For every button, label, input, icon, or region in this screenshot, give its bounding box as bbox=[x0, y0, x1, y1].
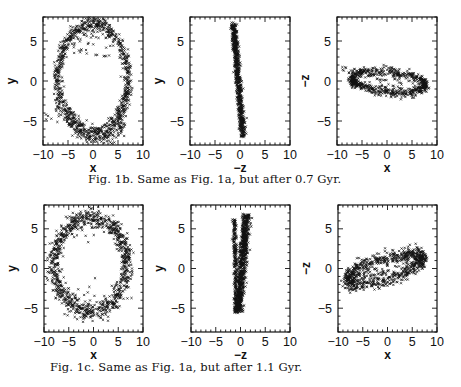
x-tick-label: 0 bbox=[384, 335, 391, 349]
scatter-plot: −10−50510−505xy bbox=[44, 205, 143, 332]
data-points bbox=[340, 243, 428, 294]
figure-caption: Fig. 1c. Same as Fig. 1a, but after 1.1 … bbox=[50, 360, 302, 374]
y-tick-label: 5 bbox=[325, 222, 332, 236]
panel-1c-xy: −10−50510−505xy bbox=[44, 205, 143, 332]
x-tick-label: 0 bbox=[237, 335, 244, 349]
x-tick-label: 10 bbox=[136, 335, 150, 349]
x-tick-label: 10 bbox=[283, 335, 297, 349]
y-tick-label: 0 bbox=[178, 262, 185, 276]
y-axis-label: y bbox=[5, 265, 19, 272]
panel-1c-zy: −10−50510−505−zy bbox=[191, 205, 290, 332]
x-tick-label: −10 bbox=[180, 335, 201, 349]
figure-1c: −10−50510−505xy −10−50510−505−zy −10−505… bbox=[0, 0, 461, 387]
data-points bbox=[46, 206, 135, 323]
y-axis-label: −z bbox=[299, 262, 313, 275]
x-tick-label: 5 bbox=[409, 335, 416, 349]
x-tick-label: 10 bbox=[430, 335, 444, 349]
x-tick-label: 0 bbox=[90, 335, 97, 349]
x-tick-label: −10 bbox=[327, 335, 348, 349]
x-tick-label: 5 bbox=[262, 335, 269, 349]
scatter-plot: −10−50510−505x−z bbox=[338, 205, 437, 332]
y-tick-label: −5 bbox=[24, 302, 38, 316]
x-tick-label: −10 bbox=[33, 335, 54, 349]
x-tick-label: 5 bbox=[115, 335, 122, 349]
y-tick-label: 0 bbox=[31, 262, 38, 276]
x-axis-label: x bbox=[384, 348, 391, 362]
scatter-plot: −10−50510−505−zy bbox=[191, 205, 290, 332]
data-points bbox=[231, 213, 253, 314]
x-tick-label: −5 bbox=[62, 335, 76, 349]
panel-1c-xz: −10−50510−505x−z bbox=[338, 205, 437, 332]
y-tick-label: −5 bbox=[318, 302, 332, 316]
y-tick-label: 5 bbox=[31, 222, 38, 236]
x-tick-label: −5 bbox=[209, 335, 223, 349]
y-axis-label: y bbox=[152, 265, 166, 272]
y-tick-label: −5 bbox=[171, 302, 185, 316]
y-tick-label: 5 bbox=[178, 222, 185, 236]
x-tick-label: −5 bbox=[356, 335, 370, 349]
y-tick-label: 0 bbox=[325, 262, 332, 276]
